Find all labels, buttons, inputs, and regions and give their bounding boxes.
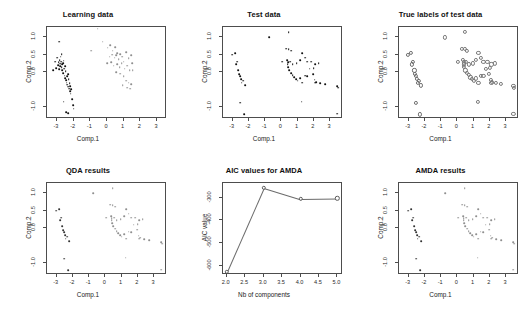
- data-point: [131, 232, 133, 234]
- data-point: [109, 204, 111, 206]
- data-point: [130, 88, 132, 90]
- data-point: [65, 111, 67, 113]
- x-tick: [297, 118, 298, 121]
- data-point: [285, 48, 287, 50]
- data-point: [112, 204, 114, 206]
- data-point: [231, 54, 233, 56]
- data-point: [463, 220, 465, 222]
- data-point: [306, 61, 308, 63]
- plot-area-true-labels-test-data: [398, 26, 518, 118]
- data-point: [63, 68, 65, 70]
- y-tick-label: 1.0: [382, 184, 388, 201]
- data-point: [289, 61, 291, 63]
- data-point: [124, 68, 126, 70]
- data-point: [475, 234, 477, 236]
- data-point: [111, 222, 113, 224]
- x-tick: [123, 118, 124, 121]
- x-tick: [424, 274, 425, 277]
- data-point: [62, 72, 64, 74]
- data-point: [302, 52, 304, 54]
- data-point: [290, 50, 292, 52]
- x-tick-label: 3: [503, 279, 506, 285]
- data-point: [128, 57, 130, 59]
- x-tick-label: -1: [87, 123, 92, 129]
- x-tick-label: 2.5: [240, 279, 248, 285]
- x-axis-label: Comp.1: [176, 135, 352, 142]
- x-tick: [104, 274, 105, 277]
- x-tick-label: -3: [54, 123, 59, 129]
- y-tick: [43, 192, 46, 193]
- x-tick: [137, 274, 138, 277]
- data-point: [114, 57, 116, 59]
- data-point: [485, 224, 487, 226]
- x-tick-label: 3.5: [277, 279, 285, 285]
- data-point: [115, 46, 117, 48]
- data-point: [299, 78, 301, 80]
- y-tick-label: -1.0: [30, 97, 36, 114]
- data-point: [312, 73, 314, 75]
- data-point: [110, 215, 112, 217]
- data-point: [292, 64, 294, 66]
- data-point: [412, 217, 414, 219]
- data-point: [120, 73, 122, 75]
- data-point: [126, 208, 128, 210]
- x-tick-label: -1: [438, 123, 443, 129]
- y-tick: [395, 227, 398, 228]
- y-tick: [219, 54, 222, 55]
- data-point: [289, 70, 291, 72]
- data-point: [126, 87, 128, 89]
- data-point: [315, 64, 317, 66]
- data-point: [90, 50, 92, 52]
- x-tick-label: -3: [405, 123, 410, 129]
- x-tick: [440, 118, 441, 121]
- y-tick: [43, 71, 46, 72]
- data-point: [474, 58, 478, 62]
- data-point: [287, 66, 289, 68]
- data-point: [457, 217, 459, 219]
- x-tick: [244, 274, 245, 277]
- y-tick: [43, 262, 46, 263]
- data-point: [126, 238, 128, 240]
- data-point: [62, 62, 64, 64]
- data-point: [63, 60, 65, 62]
- x-tick: [505, 274, 506, 277]
- data-point: [109, 56, 111, 58]
- data-point: [304, 57, 306, 59]
- data-point: [120, 53, 122, 55]
- data-point: [324, 83, 326, 85]
- data-point: [461, 204, 463, 206]
- data-point: [281, 61, 283, 63]
- line-marker: [298, 197, 302, 201]
- data-point: [59, 220, 61, 222]
- data-point: [299, 59, 301, 61]
- data-point: [55, 210, 57, 212]
- data-point: [148, 239, 150, 241]
- x-tick: [248, 118, 249, 121]
- data-point: [63, 258, 65, 260]
- x-axis-label: Comp.1: [0, 135, 176, 142]
- data-point: [238, 70, 240, 72]
- data-point: [410, 208, 412, 210]
- data-point: [125, 257, 127, 259]
- data-point: [465, 49, 469, 53]
- data-point: [473, 236, 475, 238]
- data-point: [513, 269, 515, 271]
- data-point: [444, 193, 446, 195]
- y-axis-label: Comp.2: [377, 44, 384, 100]
- data-point: [63, 101, 65, 103]
- data-point: [61, 70, 63, 72]
- x-tick-label: 3.0: [259, 279, 267, 285]
- data-point: [471, 61, 475, 65]
- data-point: [69, 90, 71, 92]
- panel-test-data: Test data-3-2-10123-1.00.00.51.0Comp.1Co…: [176, 2, 352, 157]
- y-tick: [219, 265, 222, 266]
- data-point: [475, 215, 477, 217]
- x-axis-label: Nb of components: [176, 291, 352, 298]
- data-point: [466, 217, 468, 219]
- data-point: [64, 234, 66, 236]
- data-point: [488, 66, 492, 70]
- data-point: [487, 72, 491, 76]
- data-point: [296, 63, 298, 65]
- data-point: [409, 51, 413, 55]
- data-point: [56, 57, 58, 59]
